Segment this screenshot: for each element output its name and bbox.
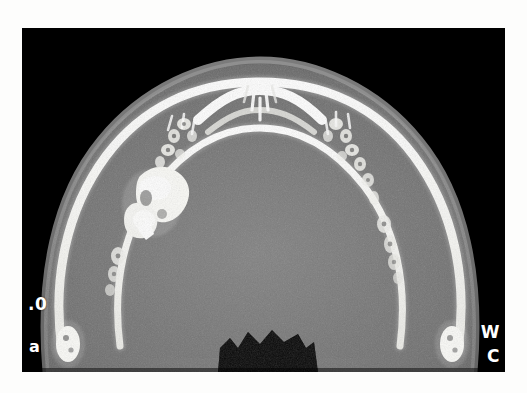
- ct-image-frame: .0 W C a: [22, 28, 505, 372]
- ct-center-annotation: C: [487, 348, 500, 365]
- ct-scan-image: [22, 28, 505, 372]
- figure-root: .0 W C a: [0, 0, 527, 393]
- figure-panel-label: a: [29, 339, 40, 355]
- ct-window-annotation: W: [481, 324, 500, 341]
- ct-scale-annotation: .0: [28, 296, 47, 313]
